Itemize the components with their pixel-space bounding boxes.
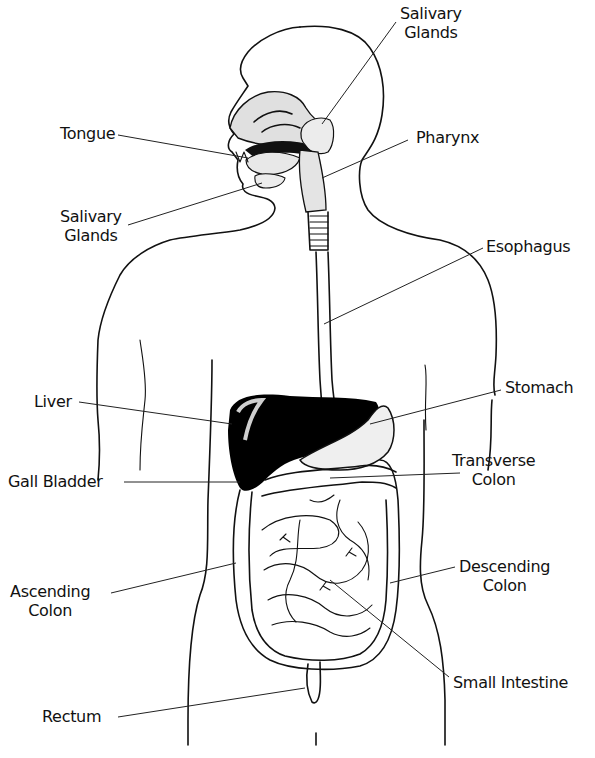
label-rectum: Rectum [42,707,101,726]
label-line: Glands [400,23,462,42]
label-gall-bladder: Gall Bladder [8,472,103,491]
label-small-intestine: Small Intestine [453,673,568,692]
label-text: Esophagus [486,237,570,256]
label-line: Salivary [60,207,122,226]
label-line: Colon [10,601,90,620]
label-esophagus: Esophagus [486,237,570,256]
label-transverse-colon: Transverse Colon [452,451,535,489]
head-internal-structures [230,92,334,250]
label-salivary-glands-left: Salivary Glands [60,207,122,245]
label-line: Transverse [452,451,535,470]
label-pharynx: Pharynx [416,128,479,147]
label-line: Ascending [10,582,90,601]
label-line: Colon [452,470,535,489]
label-line: Glands [60,226,122,245]
label-liver: Liver [34,392,72,411]
label-text: Tongue [60,124,115,143]
label-line: Salivary [400,4,462,23]
label-stomach: Stomach [505,378,573,397]
label-text: Small Intestine [453,673,568,692]
label-line: Colon [459,576,550,595]
label-text: Rectum [42,707,101,726]
label-descending-colon: Descending Colon [459,557,550,595]
label-tongue: Tongue [60,124,115,143]
label-text: Stomach [505,378,573,397]
label-ascending-colon: Ascending Colon [10,582,90,620]
intestines [233,460,399,703]
esophagus [316,252,336,412]
label-text: Liver [34,392,72,411]
label-text: Gall Bladder [8,472,103,491]
label-text: Pharynx [416,128,479,147]
label-line: Descending [459,557,550,576]
label-salivary-glands-top: Salivary Glands [400,4,462,42]
